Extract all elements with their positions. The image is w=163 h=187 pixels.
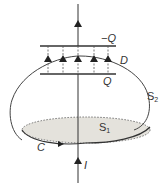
label-s2-main: S [147,90,154,102]
diagram: −Q Q D S2 S1 C I [0,0,163,187]
field-arrow-icon [90,55,98,62]
label-current-i: I [84,159,87,171]
current-arrow-bottom-icon [74,157,82,164]
field-arrow-icon [104,55,112,62]
label-bottom-plate: Q [103,75,112,87]
label-s1-main: S [99,121,106,133]
surface-s1-disk [22,117,150,143]
field-lines [44,46,112,74]
current-arrow-top-icon [74,20,82,27]
label-s2-sub: 2 [154,96,158,103]
label-s2: S2 [147,90,158,103]
field-arrow-icon [44,55,52,62]
label-top-plate: −Q [101,32,116,44]
label-field-d: D [120,54,128,66]
label-curve-c: C [37,141,45,153]
field-arrow-icon [59,55,67,62]
label-s1-sub: 1 [106,127,110,134]
